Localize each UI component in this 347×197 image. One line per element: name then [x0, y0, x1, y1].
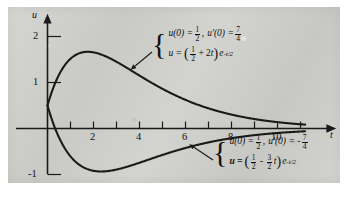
upper-eq-close-paren: ) [214, 48, 219, 59]
upper-ic-frac-num: 1 [195, 26, 201, 34]
lower-curve-annotation: { u(0) = 1 2 , u'(0) = - 7 4 u = [213, 134, 309, 170]
lower-deriv-frac-num: 7 [302, 134, 308, 142]
lower-eq-fraction-1: 1 2 [251, 154, 257, 170]
lower-eq-lhs: u = [229, 157, 242, 167]
upper-deriv-lhs: u'(0) = [207, 29, 234, 39]
upper-eq-frac-num: 1 [190, 46, 196, 54]
lower-ic-comma: , [263, 137, 265, 147]
x-tick-label-6: 6 [182, 131, 187, 142]
upper-ic-frac-den: 2 [195, 34, 201, 43]
lower-initial-conditions: u(0) = 1 2 , u'(0) = - 7 4 [229, 134, 309, 150]
upper-eq-lhs: u = [168, 49, 182, 59]
x-tick-label-4: 4 [136, 131, 141, 142]
upper-ic-comma: , [202, 29, 204, 39]
lower-eq-exp-sup: -t/2 [286, 159, 296, 166]
lower-ic-frac-num: 1 [256, 134, 262, 142]
upper-brace: { [152, 31, 166, 57]
lower-eq-fraction-2: 3 2 [267, 154, 273, 170]
y-tick-label-2: 2 [33, 30, 38, 41]
lower-equation: u = ( 1 2 - 3 2 t ) e -t/2 [229, 154, 309, 170]
x-axis-ticks [71, 122, 301, 129]
lower-eq-open-paren: ( [244, 156, 249, 167]
lower-eq-minus: - [260, 157, 263, 167]
lower-ic-fraction: 1 2 [256, 134, 262, 150]
y-tick-label-minus-1: -1 [28, 168, 37, 179]
figure-container: u t 2 1 -1 2 4 6 8 10 { u(0) = 1 2 , u'(… [0, 0, 347, 197]
upper-equation: u = ( 1 2 + 2 t ) e -t/2 [168, 46, 242, 62]
lower-annotation-leader-line [194, 147, 214, 160]
lower-eq-close-paren: ) [276, 156, 281, 167]
upper-ic-lhs: u(0) = [168, 29, 193, 39]
upper-ic-fraction: 1 2 [195, 26, 201, 42]
lower-ic-lhs: u(0) = [229, 137, 254, 147]
upper-initial-conditions: u(0) = 1 2 , u'(0) = 7 4 [168, 26, 242, 42]
upper-deriv-frac-num: 7 [235, 26, 241, 34]
lower-brace: { [213, 139, 227, 165]
lower-deriv-lhs: u'(0) = - [268, 137, 300, 147]
upper-eq-fraction: 1 2 [190, 46, 196, 62]
upper-eq-frac-den: 2 [190, 54, 196, 63]
upper-deriv-frac-den: 4 [235, 34, 241, 43]
upper-deriv-fraction: 7 4 [235, 26, 241, 42]
y-axis-label: u [32, 9, 37, 20]
lower-deriv-frac-den: 4 [302, 142, 308, 151]
lower-deriv-fraction: 7 4 [302, 134, 308, 150]
upper-eq-plus-term: + 2 [198, 49, 210, 59]
x-tick-label-2: 2 [90, 131, 95, 142]
lower-eq-frac2-den: 2 [267, 162, 273, 171]
upper-annotation-leader-line [135, 52, 153, 67]
upper-eq-open-paren: ( [184, 48, 189, 59]
y-tick-label-1: 1 [33, 76, 38, 87]
y-axis-ticks [48, 37, 62, 175]
lower-ic-frac-den: 2 [256, 142, 262, 151]
lower-eq-frac1-num: 1 [251, 154, 257, 162]
upper-curve-annotation: { u(0) = 1 2 , u'(0) = 7 4 u = [152, 26, 243, 62]
upper-eq-exp-sup: -t/2 [223, 51, 233, 58]
lower-eq-frac1-den: 2 [251, 162, 257, 171]
lower-eq-frac2-num: 3 [267, 154, 273, 162]
upper-curve [48, 52, 306, 125]
x-axis-label: t [330, 129, 333, 140]
